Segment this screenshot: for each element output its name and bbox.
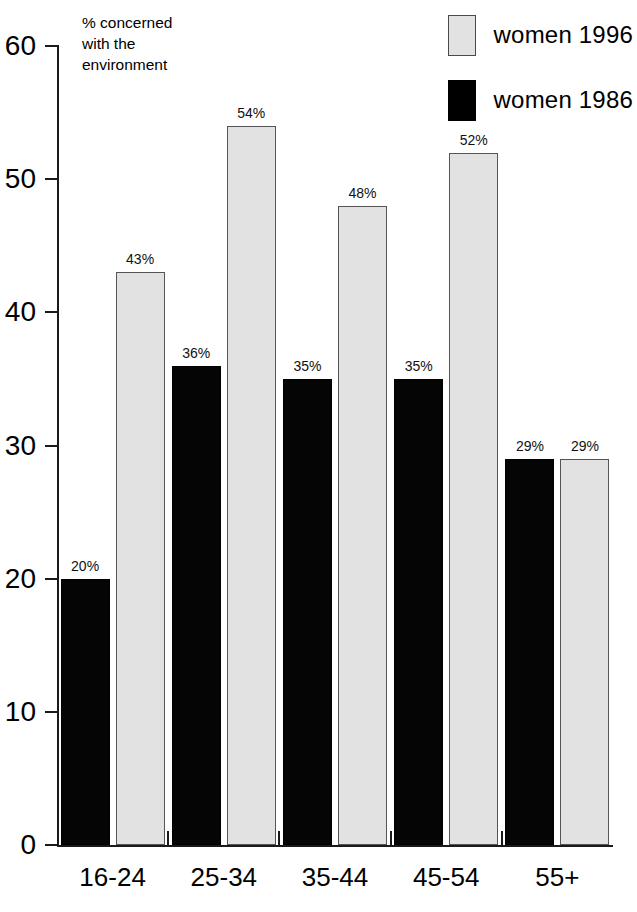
- x-axis-category-label: 35-44: [302, 862, 369, 893]
- x-axis-tick-labels: 16-2425-3435-4445-5455+: [57, 862, 613, 902]
- bar-value-label: 54%: [237, 105, 265, 121]
- y-axis-tick-label: 30: [5, 430, 36, 462]
- y-axis-tick-label: 60: [5, 30, 36, 62]
- y-axis-tick-label: 40: [5, 296, 36, 328]
- bar-value-label: 35%: [293, 358, 321, 374]
- bar-women-1996: 48%: [338, 206, 387, 845]
- y-axis-tick: [45, 578, 59, 580]
- bar-value-label: 52%: [460, 132, 488, 148]
- y-axis-tick: [45, 711, 59, 713]
- plot-area: 20%43%36%54%35%48%35%52%29%29%: [57, 46, 613, 845]
- bar-value-label: 29%: [516, 438, 544, 454]
- x-axis-line: [57, 845, 613, 847]
- bar-women-1986: 35%: [394, 379, 443, 845]
- bar-value-label: 35%: [405, 358, 433, 374]
- bar-women-1986: 29%: [505, 459, 554, 845]
- bar-value-label: 29%: [571, 438, 599, 454]
- x-axis-tick: [501, 831, 503, 845]
- x-axis-category-label: 45-54: [413, 862, 480, 893]
- y-axis-tick: [45, 445, 59, 447]
- y-axis-tick: [45, 311, 59, 313]
- bar-women-1996: 52%: [449, 153, 498, 845]
- y-axis-tick: [45, 844, 59, 846]
- x-axis-tick: [167, 831, 169, 845]
- bar-women-1986: 20%: [61, 579, 110, 845]
- x-axis-category-label: 55+: [535, 862, 579, 893]
- bar-women-1996: 54%: [227, 126, 276, 845]
- y-axis-tick-label: 50: [5, 163, 36, 195]
- bar-women-1996: 43%: [116, 272, 165, 845]
- legend-label-women-1996: women 1996: [494, 21, 633, 49]
- bar-value-label: 48%: [348, 185, 376, 201]
- bar-chart: women 1996 women 1986 % concerned with t…: [0, 0, 637, 912]
- y-axis-tick-labels: 0102030405060: [0, 46, 50, 845]
- bar-women-1986: 36%: [172, 366, 221, 845]
- x-axis-tick: [390, 831, 392, 845]
- x-axis-category-label: 25-34: [191, 862, 258, 893]
- bar-women-1986: 35%: [283, 379, 332, 845]
- y-axis-tick: [45, 45, 59, 47]
- x-axis-tick: [278, 831, 280, 845]
- y-axis-label-line-1: % concerned: [82, 12, 252, 33]
- bar-value-label: 43%: [126, 251, 154, 267]
- y-axis-tick-label: 20: [5, 563, 36, 595]
- y-axis-tick-label: 10: [5, 696, 36, 728]
- y-axis-tick: [45, 178, 59, 180]
- bar-value-label: 36%: [182, 345, 210, 361]
- x-axis-category-label: 16-24: [79, 862, 146, 893]
- bar-women-1996: 29%: [560, 459, 609, 845]
- bar-value-label: 20%: [71, 558, 99, 574]
- y-axis-tick-label: 0: [20, 829, 36, 861]
